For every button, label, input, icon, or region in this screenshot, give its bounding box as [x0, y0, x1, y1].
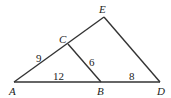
geometry-diagram: E C A B D 9 6 12 8 [0, 0, 171, 98]
point-label-E: E [98, 3, 106, 15]
point-label-D: D [156, 85, 165, 97]
point-label-C: C [59, 33, 67, 45]
point-label-A: A [8, 85, 16, 97]
segment-CB [68, 44, 101, 82]
length-CB: 6 [89, 56, 95, 68]
length-BD: 8 [129, 70, 135, 82]
point-label-B: B [97, 85, 104, 97]
length-AB: 12 [53, 70, 64, 82]
length-AC: 9 [36, 52, 42, 64]
